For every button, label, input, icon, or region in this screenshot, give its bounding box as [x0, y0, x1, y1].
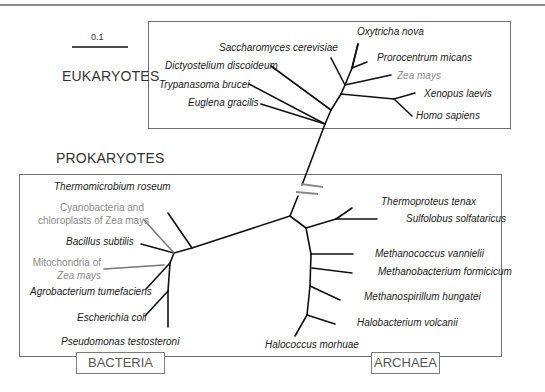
taxon-cyanobacteria-line1: Cyanobacteria and: [38, 201, 144, 214]
branch-break-marks: [296, 184, 323, 194]
taxon-dictyostelium-discoideum: Dictyostelium discoideum: [165, 60, 278, 71]
taxon-mitochondria-line2: Zea mays: [30, 269, 101, 282]
taxon-halobacterium-volcanii: Halobacterium volcanii: [357, 317, 458, 328]
taxon-zea-mays: Zea mays: [397, 70, 441, 81]
domain-label-bacteria: BACTERIA: [76, 352, 165, 374]
section-eukaryotes: EUKARYOTES: [62, 68, 159, 84]
taxon-cyanobacteria-chloroplasts: Cyanobacteria and chloroplasts of Zea ma…: [38, 201, 144, 227]
taxon-xenopus-laevis: Xenopus laevis: [424, 88, 492, 99]
taxon-thermomicrobium-roseum: Thermomicrobium roseum: [54, 181, 171, 192]
taxon-prorocentrum-micans: Prorocentrum micans: [377, 52, 472, 63]
taxon-euglena-gracilis: Euglena gracilis: [188, 97, 259, 108]
taxon-cyanobacteria-line2: chloroplasts of Zea mays: [38, 214, 144, 227]
taxon-mitochondria-line1: Mitochondria of: [30, 256, 101, 269]
taxon-homo-sapiens: Homo sapiens: [416, 110, 480, 121]
taxon-bacillus-subtilis: Bacillus subtilis: [66, 236, 134, 247]
taxon-methanospirillum-hungatei: Methanospirillum hungatei: [364, 291, 481, 302]
taxon-halococcus-morhuae: Halococcus morhuae: [265, 339, 359, 350]
taxon-thermoproteus-tenax: Thermoproteus tenax: [381, 196, 476, 207]
taxon-agrobacterium-tumefaciens: Agrobacterium tumefaciens: [30, 286, 152, 297]
taxon-sulfolobus-solfataricus: Sulfolobus solfataricus: [406, 213, 506, 224]
taxon-mitochondria-zea-mays: Mitochondria of Zea mays: [30, 256, 101, 282]
taxon-methanobacterium-formicicum: Methanobacterium formicicum: [378, 266, 512, 277]
taxon-trypanasoma-brucei: Trypanasoma brucei: [159, 79, 249, 90]
section-prokaryotes: PROKARYOTES: [56, 150, 165, 166]
domain-label-archaea: ARCHAEA: [371, 352, 440, 374]
taxon-oxytricha-nova: Oxytricha nova: [357, 26, 424, 37]
taxon-saccharomyces-cerevisiae: Saccharomyces cerevisiae: [219, 42, 338, 53]
taxon-methanococcus-vannielii: Methanococcus vannielii: [375, 248, 484, 259]
scale-bar-label: 0.1: [91, 32, 104, 42]
taxon-pseudomonas-testosteroni: Pseudomonas testosteroni: [61, 336, 179, 347]
taxon-escherichia-coli: Escherichia coli: [77, 312, 146, 323]
